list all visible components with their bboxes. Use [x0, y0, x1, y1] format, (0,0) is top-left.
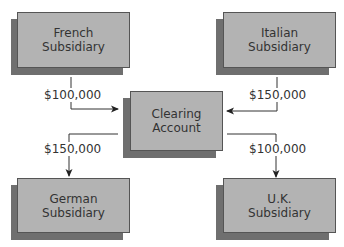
node-label-line2: Subsidiary: [248, 206, 311, 220]
box-face: Clearing Account: [130, 91, 223, 151]
node-label-line2: Subsidiary: [42, 206, 105, 220]
node-label-line1: French: [42, 26, 105, 40]
flow-amount-clearing-to-german: $150,000: [43, 142, 102, 156]
node-label-line1: Italian: [248, 26, 311, 40]
node-label-line2: Subsidiary: [42, 40, 105, 54]
node-label-line1: German: [42, 192, 105, 206]
flow-amount-italian-to-clearing: $150,000: [248, 88, 307, 102]
node-label-line1: Clearing: [152, 107, 202, 121]
box-face: French Subsidiary: [17, 12, 130, 68]
box-face: U.K. Subsidiary: [223, 178, 336, 233]
box-face: German Subsidiary: [17, 178, 130, 233]
node-label-line1: U.K.: [248, 192, 311, 206]
flow-amount-clearing-to-uk: $100,000: [248, 142, 307, 156]
flow-amount-french-to-clearing: $100,000: [43, 88, 102, 102]
node-label-line2: Account: [152, 121, 202, 135]
box-face: Italian Subsidiary: [223, 12, 336, 68]
node-label-line2: Subsidiary: [248, 40, 311, 54]
